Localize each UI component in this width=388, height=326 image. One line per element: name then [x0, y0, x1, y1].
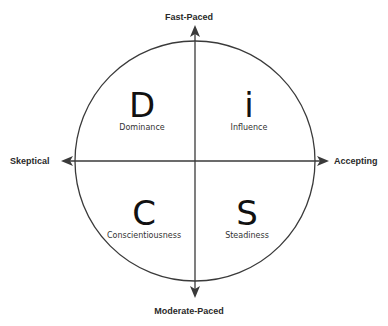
disc-diagram: Fast-Paced Moderate-Paced Skeptical Acce…: [0, 0, 388, 326]
quadrant-label-dominance: Dominance: [119, 123, 165, 132]
axis-label-bottom: Moderate-Paced: [154, 306, 224, 316]
quadrant-letter-s: S: [236, 193, 258, 233]
axis-label-right: Accepting: [334, 156, 378, 166]
quadrant-letter-c: C: [132, 193, 156, 233]
quadrant-letter-i: i: [244, 85, 253, 125]
quadrant-label-influence: Influence: [231, 123, 268, 132]
quadrant-letter-d: D: [129, 85, 155, 125]
quadrant-label-conscientiousness: Conscientiousness: [107, 231, 181, 240]
quadrant-label-steadiness: Steadiness: [225, 231, 269, 240]
axis-label-left: Skeptical: [10, 156, 50, 166]
axis-label-top: Fast-Paced: [165, 12, 213, 22]
